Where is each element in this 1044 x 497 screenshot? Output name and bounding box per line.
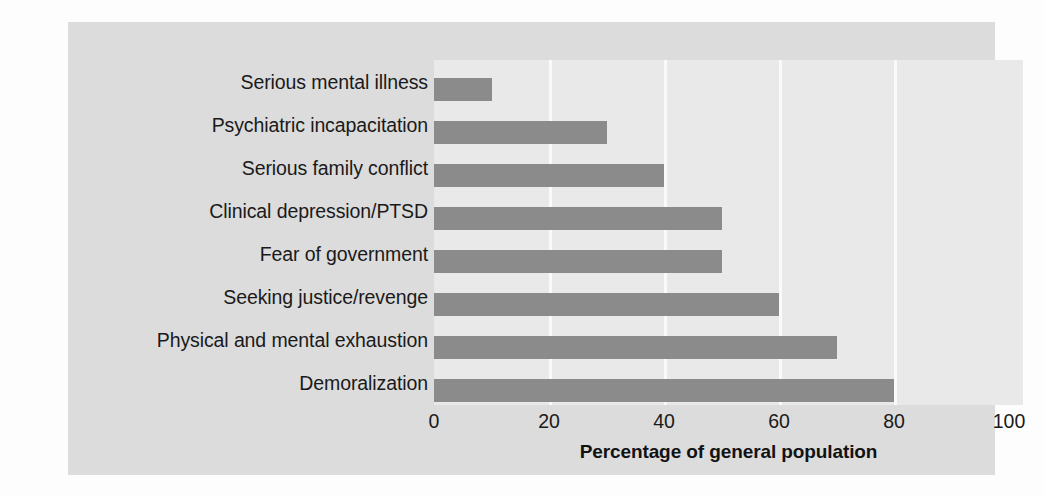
x-axis-title: Percentage of general population <box>434 441 1023 463</box>
y-axis-label-7: Demoralization <box>138 372 428 395</box>
y-axis-label-1: Psychiatric incapacitation <box>138 114 428 137</box>
bar-fear-of-government <box>434 250 722 273</box>
x-axis-ticks: 0 20 40 60 80 100 <box>434 410 1023 440</box>
bar-seeking-justice-revenge <box>434 293 779 316</box>
x-tick-0: 0 <box>429 410 440 433</box>
y-axis-label-0: Serious mental illness <box>138 71 428 94</box>
y-axis-labels: Serious mental illness Psychiatric incap… <box>128 60 428 405</box>
x-tick-100: 100 <box>993 410 1026 433</box>
x-tick-60: 60 <box>768 410 790 433</box>
y-axis-label-5: Seeking justice/revenge <box>138 286 428 309</box>
y-axis-label-4: Fear of government <box>138 243 428 266</box>
y-axis-label-2: Serious family conflict <box>138 157 428 180</box>
x-tick-40: 40 <box>653 410 675 433</box>
y-axis-label-3: Clinical depression/PTSD <box>138 200 428 223</box>
x-tick-20: 20 <box>538 410 560 433</box>
bar-serious-family-conflict <box>434 164 664 187</box>
y-axis-label-6: Physical and mental exhaustion <box>138 329 428 352</box>
bar-psychiatric-incapacitation <box>434 121 607 144</box>
chart-figure-panel: Serious mental illness Psychiatric incap… <box>68 22 995 475</box>
page-background: Serious mental illness Psychiatric incap… <box>0 0 1044 497</box>
plot-area <box>434 60 1023 405</box>
bar-serious-mental-illness <box>434 78 492 101</box>
x-tick-80: 80 <box>883 410 905 433</box>
gridline-80 <box>894 60 897 405</box>
bar-physical-and-mental-exhaustion <box>434 336 837 359</box>
bar-demoralization <box>434 379 894 402</box>
bar-clinical-depression-ptsd <box>434 207 722 230</box>
